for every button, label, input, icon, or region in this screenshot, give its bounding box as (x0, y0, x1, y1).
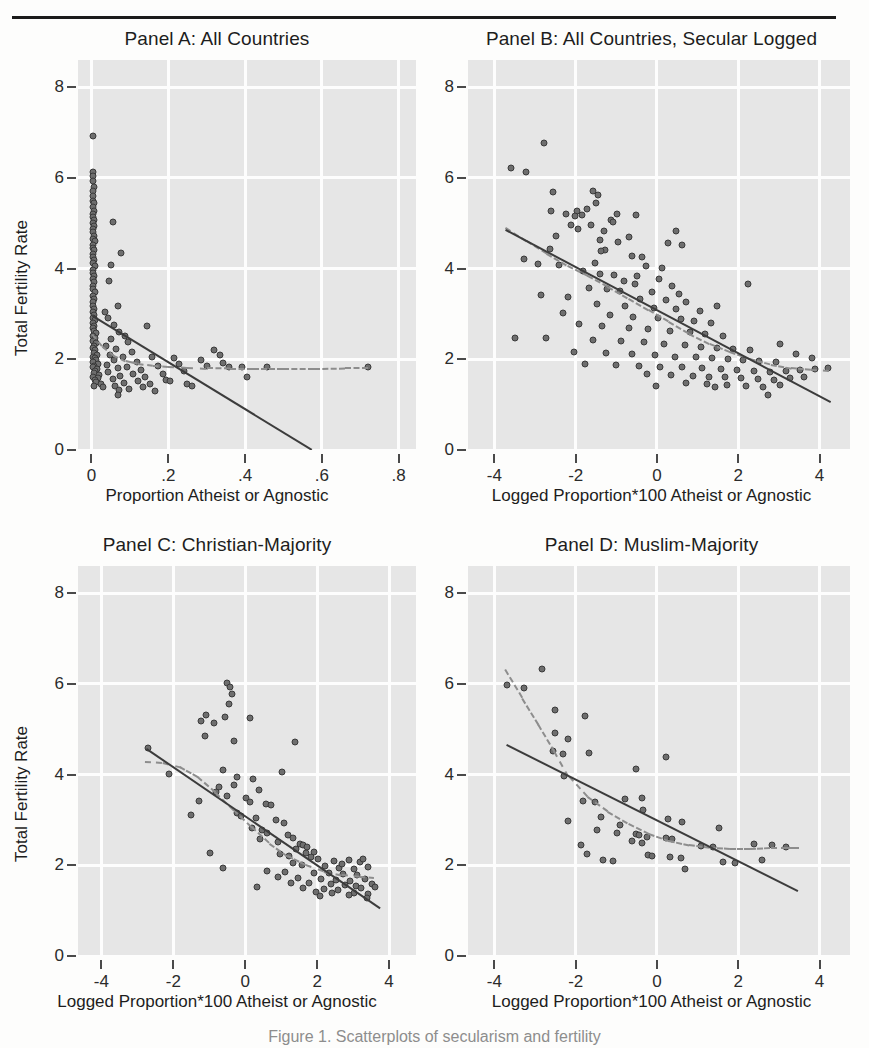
data-point (592, 260, 599, 267)
panel-d-x-axis-label: Logged Proportion*100 Atheist or Agnosti… (434, 992, 869, 1012)
data-point (676, 291, 683, 298)
data-point (745, 281, 752, 288)
data-point (703, 380, 710, 387)
data-point (597, 236, 604, 243)
data-point (593, 826, 600, 833)
y-axis-tick-label: 0 (445, 440, 454, 460)
data-point (746, 347, 753, 354)
data-point (699, 365, 706, 372)
data-point (114, 391, 121, 398)
data-point (681, 865, 688, 872)
data-point (275, 874, 282, 881)
data-point (610, 857, 617, 864)
data-point (620, 278, 627, 285)
data-point (126, 385, 133, 392)
data-point (599, 322, 606, 329)
data-point (715, 825, 722, 832)
lowess-curve-segment (771, 847, 787, 849)
data-point (585, 284, 592, 291)
panel-a-y-axis-label: Total Fertility Rate (12, 208, 32, 368)
y-axis-tick-mark (67, 358, 76, 360)
x-axis-tick-label: 2 (734, 972, 743, 992)
data-point (754, 376, 761, 383)
gridline-vertical (818, 566, 821, 956)
x-axis-tick-mark (737, 960, 739, 969)
data-point (113, 346, 120, 353)
gridline-vertical (244, 566, 247, 956)
data-point (588, 222, 595, 229)
data-point (357, 884, 364, 891)
data-point (632, 766, 639, 773)
data-point (626, 324, 633, 331)
data-point (511, 334, 518, 341)
x-axis-tick-mark (819, 960, 821, 969)
data-point (679, 364, 686, 371)
data-point (581, 712, 588, 719)
y-axis-tick-mark (457, 774, 466, 776)
data-point (543, 335, 550, 342)
data-point (103, 361, 110, 368)
data-point (295, 875, 302, 882)
data-point (691, 318, 698, 325)
data-point (622, 302, 629, 309)
x-axis-tick-label: -2 (166, 972, 181, 992)
y-axis-tick-label: 8 (445, 583, 454, 603)
y-axis-tick-label: 8 (55, 583, 64, 603)
data-point (504, 681, 511, 688)
data-point (565, 293, 572, 300)
data-point (114, 302, 121, 309)
x-axis-tick-mark (656, 960, 658, 969)
gridline-horizontal (468, 358, 850, 361)
x-axis-tick-mark (321, 454, 323, 463)
data-point (129, 370, 136, 377)
x-axis-tick-label: .6 (315, 466, 329, 486)
data-point (776, 381, 783, 388)
data-point (722, 374, 729, 381)
panel-d-plot-area (468, 566, 850, 956)
data-point (222, 713, 229, 720)
data-point (282, 868, 289, 875)
y-axis-tick-mark (67, 864, 76, 866)
lowess-curve-segment (787, 847, 799, 849)
data-point (559, 750, 566, 757)
gridline-horizontal (468, 864, 850, 867)
gridline-horizontal (468, 449, 850, 451)
gridline-horizontal (468, 86, 850, 89)
data-point (801, 373, 808, 380)
gridline-vertical (320, 60, 323, 450)
data-point (614, 211, 621, 218)
data-point (589, 337, 596, 344)
y-axis-tick-label: 6 (55, 674, 64, 694)
x-axis-tick-mark (316, 960, 318, 969)
data-point (672, 306, 679, 313)
gridline-vertical (172, 566, 175, 956)
data-point (581, 360, 588, 367)
data-point (278, 768, 285, 775)
panel-b-plot-area (468, 60, 850, 450)
data-point (692, 354, 699, 361)
data-point (565, 736, 572, 743)
panel-b: Panel B: All Countries, Secular Logged L… (434, 28, 869, 518)
data-point (642, 262, 649, 269)
x-axis-tick-label: .2 (161, 466, 175, 486)
data-point (625, 233, 632, 240)
data-point (593, 300, 600, 307)
data-point (655, 275, 662, 282)
data-point (580, 797, 587, 804)
data-point (719, 858, 726, 865)
data-point (217, 351, 224, 358)
y-axis-tick-label: 0 (55, 440, 64, 460)
y-axis-tick-mark (457, 864, 466, 866)
data-point (106, 278, 113, 285)
y-axis-tick-label: 4 (55, 765, 64, 785)
data-point (550, 188, 557, 195)
panel-c-canvas (78, 566, 416, 956)
data-point (760, 383, 767, 390)
data-point (90, 382, 97, 389)
data-point (714, 302, 721, 309)
data-point (665, 816, 672, 823)
x-axis-tick-label: -4 (94, 972, 109, 992)
data-point (600, 856, 607, 863)
data-point (165, 770, 172, 777)
data-point (345, 856, 352, 863)
